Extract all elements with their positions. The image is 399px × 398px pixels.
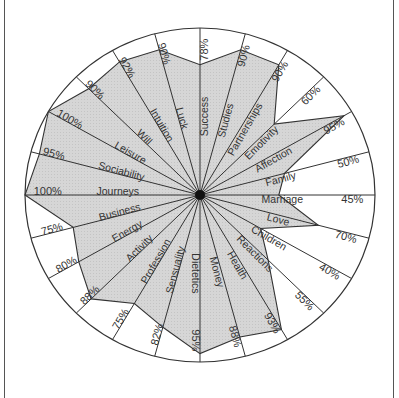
value-label: 80% (54, 253, 79, 275)
value-label: 78% (198, 38, 210, 60)
category-label: Marriage (262, 193, 304, 205)
value-label: 45% (341, 193, 363, 205)
category-label: Success (198, 97, 210, 137)
value-label: 100% (34, 185, 62, 197)
value-label: 50% (336, 153, 361, 170)
value-label: 82% (148, 322, 165, 347)
category-label: Dietetics (190, 253, 202, 293)
value-label: 40% (317, 260, 342, 282)
value-label: 60% (298, 83, 322, 107)
value-label: 75% (110, 306, 132, 331)
center-dot (195, 190, 205, 200)
center-hub (195, 190, 205, 200)
category-label: Journeys (96, 185, 139, 197)
value-label: 55% (293, 289, 317, 313)
value-label: 95% (190, 329, 202, 351)
value-label: 70% (334, 228, 359, 245)
value-label: 75% (40, 220, 65, 237)
